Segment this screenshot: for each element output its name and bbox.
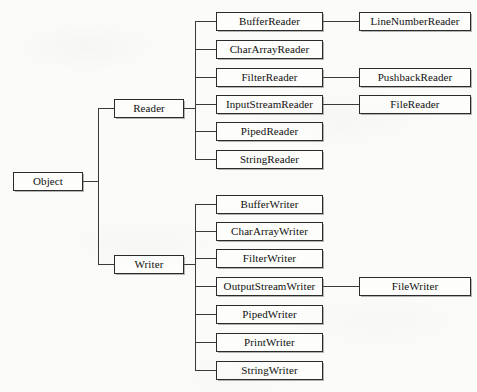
edge-bus-to-filterwriter: [195, 258, 216, 259]
edge-bus-to-outputstreamwriter: [195, 286, 216, 287]
node-object[interactable]: Object: [13, 172, 83, 191]
node-bufferreader[interactable]: BufferReader: [216, 12, 323, 31]
edge-root-trunk-vertical: [98, 108, 99, 265]
edge-trunk-to-writer: [98, 264, 115, 265]
node-inputstreamreader-label: InputStreamReader: [226, 99, 313, 110]
node-stringwriter-label: StringWriter: [241, 365, 297, 376]
node-writer[interactable]: Writer: [114, 255, 184, 274]
edge-bus-to-pipedreader: [195, 131, 216, 132]
node-linenumberreader[interactable]: LineNumberReader: [359, 12, 471, 31]
node-reader[interactable]: Reader: [114, 99, 184, 118]
edge-bus-to-stringreader: [195, 159, 216, 160]
edge-inputstreamreader-to-filereader: [323, 104, 359, 105]
node-filewriter[interactable]: FileWriter: [359, 277, 471, 296]
node-outputstreamwriter-label: OutputStreamWriter: [224, 281, 316, 292]
edge-bus-to-bufferreader: [195, 21, 216, 22]
node-chararrayreader-label: CharArrayReader: [230, 44, 310, 55]
node-chararraywriter-label: CharArrayWriter: [231, 226, 308, 237]
node-filterreader[interactable]: FilterReader: [216, 68, 323, 87]
node-printwriter-label: PrintWriter: [244, 337, 295, 348]
edge-object-to-trunk: [83, 181, 99, 182]
writer-bus-vertical: [195, 204, 196, 370]
node-pushbackreader-label: PushbackReader: [378, 72, 453, 83]
node-printwriter[interactable]: PrintWriter: [216, 333, 323, 352]
node-linenumberreader-label: LineNumberReader: [371, 16, 460, 27]
edge-bus-to-bufferwriter: [195, 204, 216, 205]
edge-bus-to-chararrayreader: [195, 49, 216, 50]
node-inputstreamreader[interactable]: InputStreamReader: [216, 95, 323, 114]
edge-bus-to-chararraywriter: [195, 231, 216, 232]
node-bufferwriter[interactable]: BufferWriter: [216, 195, 323, 214]
reader-bus-vertical: [195, 21, 196, 159]
node-filterwriter-label: FilterWriter: [243, 253, 296, 264]
node-stringwriter[interactable]: StringWriter: [216, 361, 323, 380]
edge-bufferreader-to-linenumberreader: [323, 21, 359, 22]
edge-bus-to-pipedwriter: [195, 314, 216, 315]
diagram-canvas: Object Reader Writer BufferReader CharAr…: [0, 0, 477, 392]
edge-bus-to-inputstreamreader: [195, 104, 216, 105]
node-filereader-label: FileReader: [390, 99, 439, 110]
node-chararrayreader[interactable]: CharArrayReader: [216, 40, 323, 59]
edge-trunk-to-reader: [98, 108, 115, 109]
node-pipedreader[interactable]: PipedReader: [216, 122, 323, 141]
node-chararraywriter[interactable]: CharArrayWriter: [216, 222, 323, 241]
node-stringreader-label: StringReader: [240, 154, 299, 165]
edge-outputstreamwriter-to-filewriter: [323, 286, 359, 287]
node-writer-label: Writer: [135, 259, 164, 270]
node-pipedreader-label: PipedReader: [241, 126, 298, 137]
edge-bus-to-filterreader: [195, 77, 216, 78]
node-bufferwriter-label: BufferWriter: [241, 199, 299, 210]
node-pipedwriter-label: PipedWriter: [242, 309, 296, 320]
node-object-label: Object: [33, 176, 63, 187]
node-pushbackreader[interactable]: PushbackReader: [359, 68, 471, 87]
node-outputstreamwriter[interactable]: OutputStreamWriter: [216, 277, 323, 296]
edge-bus-to-printwriter: [195, 342, 216, 343]
edge-bus-to-stringwriter: [195, 370, 216, 371]
node-filterreader-label: FilterReader: [241, 72, 297, 83]
node-stringreader[interactable]: StringReader: [216, 150, 323, 169]
node-pipedwriter[interactable]: PipedWriter: [216, 305, 323, 324]
node-filewriter-label: FileWriter: [392, 281, 438, 292]
node-reader-label: Reader: [133, 103, 165, 114]
node-filereader[interactable]: FileReader: [359, 95, 471, 114]
edge-filterreader-to-pushbackreader: [323, 77, 359, 78]
node-bufferreader-label: BufferReader: [239, 16, 300, 27]
node-filterwriter[interactable]: FilterWriter: [216, 249, 323, 268]
